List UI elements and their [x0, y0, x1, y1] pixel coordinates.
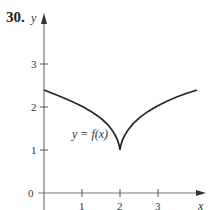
curve-label: y = f(x) — [71, 127, 108, 141]
x-axis-arrow-icon — [196, 190, 206, 196]
x-axis-label: x — [197, 199, 204, 210]
y-tick-0: 0 — [28, 187, 34, 199]
x-tick-3: 3 — [155, 200, 161, 210]
x-tick-2: 2 — [117, 200, 123, 210]
x-tick-1: 1 — [79, 200, 85, 210]
y-ticks: 0 1 2 3 — [28, 58, 48, 199]
y-axis-label: y — [30, 11, 37, 25]
function-curve — [44, 90, 197, 150]
x-ticks: 1 2 3 — [79, 189, 161, 210]
problem-number: 30. — [6, 9, 25, 25]
y-tick-1: 1 — [31, 144, 37, 156]
function-graph: 30. y x 0 1 2 3 1 2 3 y = f(x) — [0, 0, 216, 210]
y-axis-arrow-icon — [41, 13, 47, 24]
y-tick-2: 2 — [31, 101, 37, 113]
y-tick-3: 3 — [31, 58, 37, 70]
